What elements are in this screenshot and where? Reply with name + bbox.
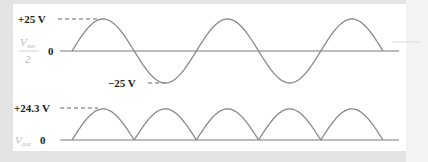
rectified-wave xyxy=(72,109,383,140)
diagram-stage: +25 V −25 V 0 V sec 2 +24.3 V 0 V out xyxy=(0,0,428,162)
waveform-diagram: +25 V −25 V 0 V sec 2 +24.3 V 0 V out xyxy=(0,0,428,162)
top-trough-label: −25 V xyxy=(108,77,136,89)
bottom-signal-subscript: out xyxy=(22,140,32,148)
top-peak-label: +25 V xyxy=(18,13,46,25)
top-signal-subscript: sec xyxy=(27,42,37,50)
bottom-waveform: +24.3 V 0 V out xyxy=(14,102,399,148)
bottom-zero-label: 0 xyxy=(40,134,46,146)
bottom-peak-label: +24.3 V xyxy=(14,102,50,114)
top-signal-denominator: 2 xyxy=(25,53,31,65)
top-zero-label: 0 xyxy=(48,45,54,57)
top-waveform: +25 V −25 V 0 V sec 2 xyxy=(18,13,420,89)
